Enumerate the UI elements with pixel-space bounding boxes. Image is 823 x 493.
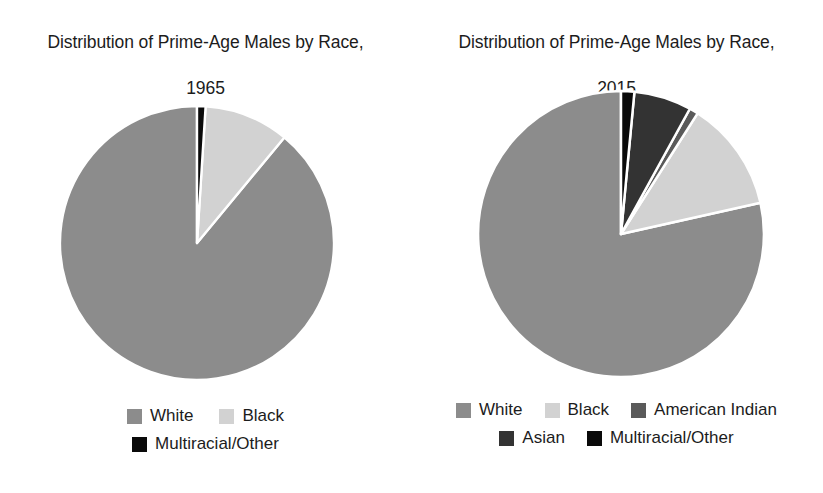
legend-item-multiracial-other[interactable]: Multiracial/Other bbox=[132, 434, 279, 454]
legend-swatch-black bbox=[545, 403, 560, 418]
legend-item-black[interactable]: Black bbox=[545, 400, 610, 420]
chart-title-line2: 1965 bbox=[186, 78, 225, 98]
legend-item-white[interactable]: White bbox=[456, 400, 522, 420]
legend-2015: White Black American Indian Asian bbox=[411, 400, 822, 456]
legend-item-white[interactable]: White bbox=[127, 406, 193, 426]
legend-label-asian: Asian bbox=[522, 428, 565, 448]
chart-title-line1: Distribution of Prime-Age Males by Race, bbox=[48, 32, 364, 52]
legend-swatch-multiracial-other bbox=[132, 437, 147, 452]
pie-1965 bbox=[58, 104, 336, 382]
legend-label-black: Black bbox=[568, 400, 610, 420]
chart-panel-2015: Distribution of Prime-Age Males by Race,… bbox=[411, 0, 822, 493]
pie-chart-figure: Distribution of Prime-Age Males by Race,… bbox=[0, 0, 823, 493]
legend-item-asian[interactable]: Asian bbox=[499, 428, 565, 448]
pie-svg-2015 bbox=[476, 89, 766, 379]
legend-swatch-white bbox=[456, 403, 471, 418]
pie-slices-1965 bbox=[60, 106, 334, 380]
legend-swatch-american-indian bbox=[631, 403, 646, 418]
legend-item-black[interactable]: Black bbox=[219, 406, 284, 426]
pie-slices-2015 bbox=[478, 91, 764, 377]
chart-title-line1: Distribution of Prime-Age Males by Race, bbox=[459, 32, 775, 52]
legend-row-1: White Black bbox=[0, 406, 411, 426]
legend-swatch-asian bbox=[499, 431, 514, 446]
legend-swatch-white bbox=[127, 409, 142, 424]
legend-item-multiracial-other[interactable]: Multiracial/Other bbox=[587, 428, 734, 448]
chart-panel-1965: Distribution of Prime-Age Males by Race,… bbox=[0, 0, 411, 493]
legend-1965: White Black Multiracial/Other bbox=[0, 406, 411, 462]
legend-label-american-indian: American Indian bbox=[654, 400, 777, 420]
legend-swatch-black bbox=[219, 409, 234, 424]
legend-label-multiracial-other: Multiracial/Other bbox=[155, 434, 279, 454]
chart-title-1965: Distribution of Prime-Age Males by Race,… bbox=[0, 8, 411, 100]
legend-swatch-multiracial-other bbox=[587, 431, 602, 446]
legend-label-multiracial-other: Multiracial/Other bbox=[610, 428, 734, 448]
legend-label-white: White bbox=[150, 406, 193, 426]
legend-row-2: Multiracial/Other bbox=[0, 434, 411, 454]
legend-label-black: Black bbox=[242, 406, 284, 426]
pie-svg-1965 bbox=[58, 104, 336, 382]
legend-item-american-indian[interactable]: American Indian bbox=[631, 400, 777, 420]
legend-row-1: White Black American Indian bbox=[411, 400, 822, 420]
legend-row-2: Asian Multiracial/Other bbox=[411, 428, 822, 448]
legend-label-white: White bbox=[479, 400, 522, 420]
pie-2015 bbox=[476, 89, 766, 379]
chart-title-2015: Distribution of Prime-Age Males by Race,… bbox=[411, 8, 822, 100]
